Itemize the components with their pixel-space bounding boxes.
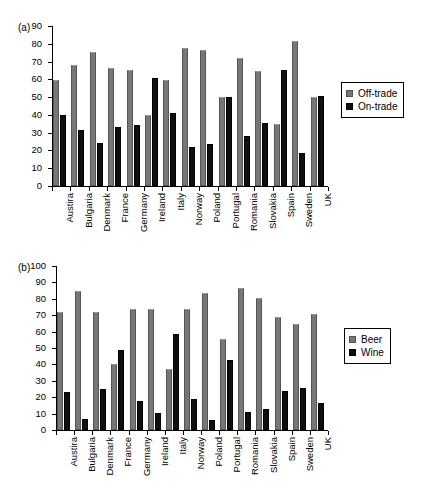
x-axis-tick	[181, 187, 182, 191]
x-axis-tick	[201, 431, 202, 435]
x-axis-tick	[74, 431, 75, 435]
bar	[145, 115, 151, 186]
bar	[184, 309, 190, 430]
x-axis-category-label: Romania	[250, 437, 260, 475]
bar-group	[147, 265, 165, 430]
bar	[134, 125, 140, 186]
x-axis-category-label: Bulgaria	[84, 193, 94, 228]
bar-group	[107, 25, 125, 186]
bar	[166, 369, 172, 431]
x-axis-tick	[328, 187, 329, 191]
x-axis-tick	[236, 187, 237, 191]
y-axis-tick-label: 20	[35, 392, 46, 402]
x-axis-tick	[107, 187, 108, 191]
bar	[318, 96, 324, 186]
x-axis-category-label: Austira	[69, 437, 79, 467]
y-axis-tick-label: 30	[35, 376, 46, 386]
bar	[191, 399, 197, 430]
bar	[219, 97, 225, 186]
x-axis-category-label: France	[123, 437, 133, 467]
x-axis-category-label: Portugal	[231, 193, 241, 228]
y-axis-tick-label: 20	[31, 146, 42, 156]
chart-panel-a: (a) 0102030405060708090AustiraBulgariaDe…	[0, 0, 423, 250]
bar	[189, 147, 195, 186]
x-axis-tick	[147, 431, 148, 435]
x-axis-tick	[254, 187, 255, 191]
x-axis-tick	[110, 431, 111, 435]
bar	[293, 324, 299, 430]
bar	[209, 420, 215, 430]
x-axis-category-label: Slovakia	[269, 437, 279, 473]
bar-group	[199, 25, 217, 186]
x-axis-tick	[52, 187, 53, 191]
x-axis-category-label: UK	[323, 437, 333, 450]
x-axis-category-label: Portugal	[232, 437, 242, 472]
bar	[115, 127, 121, 186]
bar	[108, 68, 114, 186]
bar	[263, 409, 269, 430]
x-axis-tick	[328, 431, 329, 435]
legend-swatch-icon	[346, 103, 353, 110]
panel-label-b: (b)	[18, 263, 30, 273]
y-axis-tick-label: 40	[35, 360, 46, 370]
x-axis-tick	[218, 187, 219, 191]
bar-group	[236, 25, 254, 186]
y-axis-tick-label: 0	[41, 425, 46, 435]
bar	[90, 52, 96, 186]
plot-area-a: 0102030405060708090AustiraBulgariaDenmar…	[52, 26, 328, 187]
y-axis-tick-label: 10	[35, 409, 46, 419]
bar-group	[201, 265, 219, 430]
bar	[182, 48, 188, 186]
bar	[262, 123, 268, 186]
legend-item: Off-trade	[346, 87, 397, 100]
bar-group	[219, 265, 237, 430]
x-axis-tick	[92, 431, 93, 435]
bar-group	[273, 25, 291, 186]
legend-a: Off-trade On-trade	[341, 82, 404, 118]
bar	[71, 65, 77, 186]
x-axis-tick	[219, 431, 220, 435]
bar-group	[218, 25, 236, 186]
bar-group	[129, 265, 147, 430]
bar-group	[254, 25, 272, 186]
bar	[155, 413, 161, 430]
x-axis-tick	[56, 431, 57, 435]
x-axis-category-label: Germany	[139, 193, 149, 232]
legend-swatch-icon	[349, 336, 356, 343]
x-axis-category-label: Ireland	[157, 193, 167, 222]
y-axis-tick-label: 70	[31, 57, 42, 67]
bar	[255, 71, 261, 186]
bar	[202, 293, 208, 430]
y-axis-tick-label: 100	[30, 261, 46, 271]
legend-item: Wine	[349, 346, 384, 359]
x-axis-category-label: Italy	[176, 193, 186, 210]
y-axis-tick-label: 60	[31, 75, 42, 85]
x-axis-category-label: Germany	[142, 437, 152, 476]
bar-group	[183, 265, 201, 430]
x-axis-category-label: Norway	[196, 437, 206, 469]
bar-group	[126, 25, 144, 186]
legend-label: On-trade	[358, 102, 397, 112]
bar	[256, 298, 262, 430]
x-axis-category-label: Romania	[249, 193, 259, 231]
bar-group	[310, 25, 328, 186]
legend-item: Beer	[349, 333, 384, 346]
bar	[311, 314, 317, 430]
bar	[127, 70, 133, 186]
bar	[170, 113, 176, 186]
bar	[163, 80, 169, 186]
x-axis-category-label: Spain	[286, 193, 296, 217]
bar	[137, 401, 143, 430]
bar	[82, 419, 88, 430]
bar-group	[310, 265, 328, 430]
x-axis-tick	[291, 187, 292, 191]
bar	[130, 309, 136, 430]
bar	[237, 58, 243, 186]
y-axis-tick-label: 60	[35, 327, 46, 337]
legend-label: Off-trade	[358, 89, 397, 99]
bar	[220, 339, 226, 430]
bar	[245, 412, 251, 430]
x-axis-tick	[292, 431, 293, 435]
bar	[78, 130, 84, 186]
bar	[281, 70, 287, 186]
